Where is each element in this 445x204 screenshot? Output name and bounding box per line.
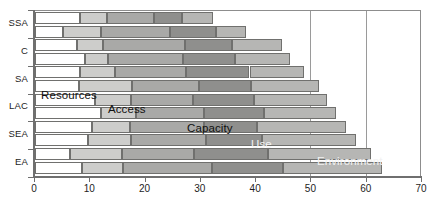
bar-segment-access <box>85 53 108 65</box>
bar-row <box>35 39 421 51</box>
bar-segment-use <box>186 66 249 78</box>
bar-segment-environment <box>254 94 327 106</box>
x-tick-label: 50 <box>290 183 330 194</box>
y-category-label-sa: SA <box>0 73 28 84</box>
bar-segment-use <box>204 107 265 119</box>
bar-segment-environment <box>251 80 318 92</box>
bar-segment-capacity <box>131 134 206 146</box>
bar-row <box>35 26 421 38</box>
bar-segment-resources <box>35 121 92 133</box>
bar-row <box>35 107 421 119</box>
bar-segment-use <box>212 162 283 174</box>
x-axis-line <box>33 176 422 178</box>
bar-segment-capacity <box>123 162 211 174</box>
bar-segment-resources <box>35 12 80 24</box>
bar-segment-resources <box>35 53 85 65</box>
y-category-label-ssa: SSA <box>0 17 28 28</box>
bar-segment-capacity <box>115 66 187 78</box>
bar-segment-use <box>185 39 232 51</box>
x-tick-label: 10 <box>69 183 109 194</box>
bar-segment-access <box>80 66 114 78</box>
bar-segment-capacity <box>122 148 194 160</box>
bar-segment-resources <box>35 39 77 51</box>
x-tick <box>310 177 311 182</box>
bar-segment-environment <box>216 26 246 38</box>
bar-segment-capacity <box>132 80 199 92</box>
y-tick <box>28 10 34 11</box>
x-tick <box>255 177 256 182</box>
bar-segment-environment <box>182 12 213 24</box>
y-category-label-ea: EA <box>0 156 28 167</box>
bar-segment-use <box>199 80 251 92</box>
bar-segment-capacity <box>107 12 153 24</box>
x-tick <box>34 177 35 182</box>
bar-segment-access <box>70 148 122 160</box>
bar-segment-access <box>88 134 131 146</box>
x-tick <box>145 177 146 182</box>
bar-segment-access <box>82 162 123 174</box>
bar-segment-use <box>183 53 235 65</box>
plot-area: ResourcesAccessCapacityUseEnvironment <box>34 10 421 177</box>
bar-row <box>35 134 421 146</box>
y-tick <box>28 121 34 122</box>
series-label-capacity: Capacity <box>187 122 233 134</box>
bar-segment-use <box>154 12 182 24</box>
y-category-label-sea: SEA <box>0 128 28 139</box>
series-label-resources: Resources <box>41 89 97 101</box>
bar-segment-use <box>170 26 216 38</box>
bar-segment-access <box>63 26 101 38</box>
bar-segment-environment <box>264 107 336 119</box>
x-tick-label: 60 <box>346 183 386 194</box>
x-tick-label: 20 <box>125 183 165 194</box>
series-label-use: Use <box>251 138 272 150</box>
bar-segment-capacity <box>103 39 185 51</box>
bar-segment-resources <box>35 162 82 174</box>
y-tick <box>28 66 34 67</box>
x-tick <box>421 177 422 182</box>
bar-row <box>35 66 421 78</box>
x-tick <box>366 177 367 182</box>
bar-segment-resources <box>35 148 70 160</box>
bar-segment-access <box>77 39 103 51</box>
x-tick-label: 0 <box>14 183 54 194</box>
bar-segment-environment <box>250 66 304 78</box>
x-tick-label: 70 <box>401 183 441 194</box>
y-tick <box>28 94 34 95</box>
x-tick <box>200 177 201 182</box>
x-tick <box>89 177 90 182</box>
y-category-label-lac: LAC <box>0 100 28 111</box>
bar-segment-access <box>80 12 107 24</box>
bar-segment-access <box>92 121 130 133</box>
bar-segment-resources <box>35 66 80 78</box>
bar-segment-environment <box>235 53 290 65</box>
series-label-environment: Environment <box>317 155 383 167</box>
bar-segment-use <box>193 94 254 106</box>
series-label-access: Access <box>108 103 146 115</box>
bar-segment-capacity <box>108 53 183 65</box>
bar-segment-resources <box>35 134 88 146</box>
bar-segment-environment <box>262 134 356 146</box>
x-tick-label: 40 <box>235 183 275 194</box>
x-tick-label: 30 <box>180 183 220 194</box>
y-tick <box>28 149 34 150</box>
bar-segment-capacity <box>136 107 203 119</box>
y-tick <box>28 38 34 39</box>
bar-segment-resources <box>35 107 101 119</box>
y-category-label-c: C <box>0 45 28 56</box>
bar-row <box>35 12 421 24</box>
bar-segment-environment <box>257 121 345 133</box>
stacked-bar-chart: ResourcesAccessCapacityUseEnvironment SS… <box>0 0 445 204</box>
bar-segment-resources <box>35 26 63 38</box>
bar-segment-capacity <box>101 26 170 38</box>
bar-row <box>35 53 421 65</box>
bar-segment-environment <box>232 39 282 51</box>
